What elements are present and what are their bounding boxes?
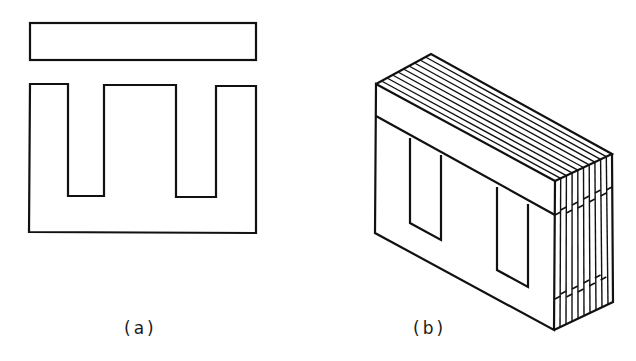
panel-a-drawing [29,23,256,233]
core-diagram [0,0,636,361]
panel-b-label: (b) [413,318,446,338]
left-window [410,138,441,240]
top-lamination-lines [382,57,607,178]
right-window [497,187,528,287]
panel-a-label: (a) [124,318,157,338]
lower-joint-ticks [555,275,606,299]
i-lamination-bar [30,23,256,60]
side-lamination-lines [560,157,608,328]
e-lamination [29,84,256,233]
